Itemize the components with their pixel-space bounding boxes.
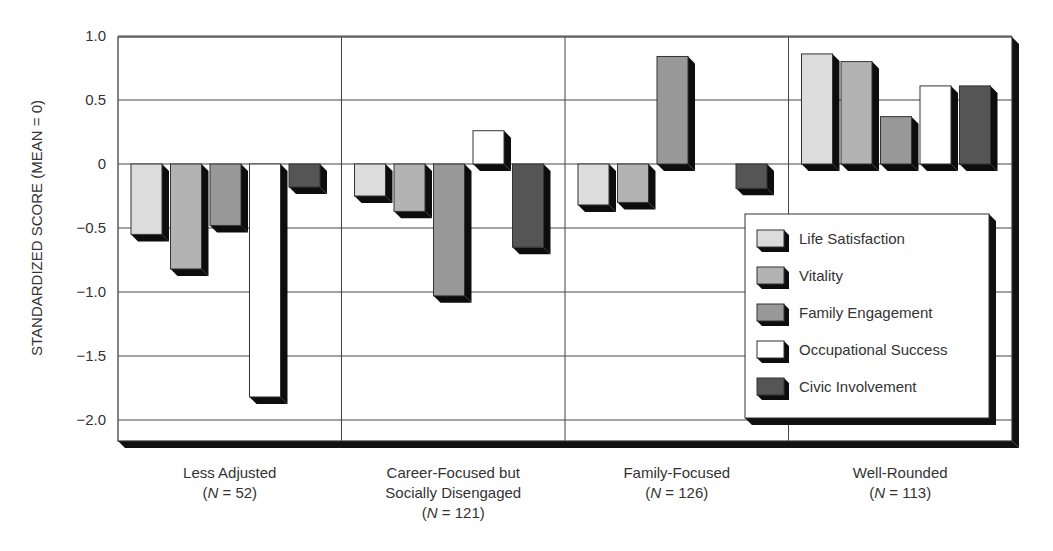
x-axis-category-labels: Less Adjusted(N = 52)Career-Focused butS… <box>183 464 948 521</box>
bar <box>513 164 551 254</box>
category-label-line: Less Adjusted <box>183 464 276 481</box>
bar-side <box>872 62 879 171</box>
category-label-line: Socially Disengaged <box>385 484 521 501</box>
y-tick-label: 0.5 <box>85 91 106 108</box>
bar <box>578 164 616 212</box>
legend-swatch <box>757 378 784 395</box>
legend-swatch <box>757 267 784 284</box>
bar-side <box>241 164 248 232</box>
bar-face <box>578 164 609 205</box>
bar-side <box>202 164 209 276</box>
bar <box>841 62 879 171</box>
bar-face <box>171 164 202 269</box>
bar-side <box>951 86 958 171</box>
bar-side <box>649 164 656 209</box>
category-label-line: Family-Focused <box>623 464 730 481</box>
y-tick-label: 1.0 <box>85 27 106 44</box>
bar-face <box>841 62 872 164</box>
frame-shadow-right <box>1012 37 1019 448</box>
bar-side <box>425 164 432 218</box>
legend-label: Life Satisfaction <box>799 230 905 247</box>
bar <box>473 131 511 171</box>
category-label-line: Career-Focused but <box>387 464 521 481</box>
y-tick-label: 0 <box>98 155 106 172</box>
bar <box>920 86 958 171</box>
bar-face <box>473 131 504 164</box>
bar-side <box>281 164 288 404</box>
bar <box>210 164 248 232</box>
category-label: Family-Focused(N = 126) <box>623 464 730 501</box>
bar <box>960 86 998 171</box>
bar-face <box>802 54 833 164</box>
y-axis-ticks: 1.00.50−0.5−1.0−1.5−2.0 <box>76 27 106 428</box>
bar-side <box>162 164 169 241</box>
bar-side <box>833 54 840 171</box>
bar-face <box>250 164 281 397</box>
legend-label: Occupational Success <box>799 341 947 358</box>
bar-face <box>394 164 425 211</box>
bar <box>434 164 472 303</box>
bar <box>131 164 169 241</box>
bar <box>394 164 432 218</box>
bar-side <box>465 164 472 303</box>
bar <box>736 164 774 195</box>
y-tick-label: −1.5 <box>76 347 106 364</box>
bar-face <box>920 86 951 164</box>
bar <box>657 56 695 171</box>
bar-chart: Life SatisfactionVitalityFamily Engageme… <box>0 0 1053 551</box>
category-label-line: (N = 121) <box>422 504 485 521</box>
bar-face <box>434 164 465 296</box>
category-label-line: (N = 126) <box>645 484 708 501</box>
category-label: Career-Focused butSocially Disengaged(N … <box>385 464 521 521</box>
legend-label: Civic Involvement <box>799 378 917 395</box>
y-axis-title: STANDARDIZED SCORE (MEAN = 0) <box>28 100 45 356</box>
bar <box>802 54 840 171</box>
bar-face <box>210 164 241 225</box>
category-label: Less Adjusted(N = 52) <box>183 464 276 501</box>
bar-side <box>991 86 998 171</box>
bar-face <box>355 164 386 196</box>
y-tick-label: −2.0 <box>76 411 106 428</box>
category-label: Well-Rounded(N = 113) <box>853 464 948 501</box>
category-label-line: (N = 113) <box>869 484 931 501</box>
bar <box>289 164 327 194</box>
bar-face <box>513 164 544 247</box>
legend-label: Family Engagement <box>799 304 933 321</box>
bar-face <box>881 117 912 164</box>
bar-face <box>736 164 767 188</box>
legend-label: Vitality <box>799 267 843 284</box>
bar-face <box>131 164 162 234</box>
bar-side <box>688 56 695 171</box>
bar <box>355 164 393 203</box>
legend: Life SatisfactionVitalityFamily Engageme… <box>745 214 996 425</box>
bar-face <box>618 164 649 202</box>
legend-swatch <box>757 304 784 321</box>
bar-side <box>504 131 511 171</box>
bar-face <box>289 164 320 187</box>
y-tick-label: −1.0 <box>76 283 106 300</box>
bar <box>881 117 919 171</box>
bar-face <box>657 56 688 164</box>
legend-swatch <box>757 341 784 358</box>
bar <box>618 164 656 209</box>
y-tick-label: −0.5 <box>76 219 106 236</box>
frame-shadow-bottom <box>118 441 1019 448</box>
bar <box>171 164 209 276</box>
category-label-line: (N = 52) <box>202 484 257 501</box>
bar-side <box>912 117 919 171</box>
bar-side <box>544 164 551 254</box>
bar-side <box>609 164 616 212</box>
legend-swatch <box>757 230 784 247</box>
bar-face <box>960 86 991 164</box>
category-label-line: Well-Rounded <box>853 464 948 481</box>
bar <box>250 164 288 404</box>
